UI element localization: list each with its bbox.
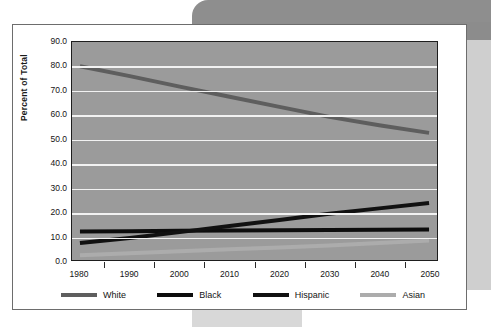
legend-label: White [103, 290, 126, 300]
series-line-black [80, 229, 429, 231]
series-line-asian [80, 241, 429, 256]
x-tick-mark [405, 262, 406, 268]
x-axis-tick-labels: 19801990200020102020203020402050 [71, 269, 438, 283]
legend-item-white[interactable]: White [61, 290, 126, 300]
gridline [72, 66, 437, 68]
y-axis-tick-labels: 90.080.070.060.050.040.030.020.010.00.0 [27, 25, 67, 309]
gridline [72, 91, 437, 93]
x-tick-mark [355, 262, 356, 268]
plot-area [71, 41, 438, 261]
x-tick-mark [104, 262, 105, 268]
x-tick-mark [305, 262, 306, 268]
x-tick-label: 2030 [320, 269, 339, 279]
y-tick-label: 10.0 [33, 232, 67, 241]
gridline [72, 115, 437, 117]
y-tick-label: 60.0 [33, 110, 67, 119]
series-line-white [80, 66, 429, 133]
legend-item-asian[interactable]: Asian [360, 290, 425, 300]
y-tick-label: 50.0 [33, 135, 67, 144]
chart-legend: WhiteBlackHispanicAsian [53, 287, 433, 303]
x-tick-mark [154, 262, 155, 268]
y-tick-label: 0.0 [33, 257, 67, 266]
legend-swatch-icon [61, 293, 97, 297]
x-axis-ticks [71, 262, 438, 269]
gridline [72, 164, 437, 166]
legend-swatch-icon [157, 293, 193, 297]
y-tick-label: 80.0 [33, 61, 67, 70]
legend-item-black[interactable]: Black [157, 290, 221, 300]
legend-label: Hispanic [295, 290, 330, 300]
x-tick-label: 2010 [220, 269, 239, 279]
chart-figure: Percent of Total 90.080.070.060.050.040.… [13, 25, 466, 309]
x-tick-label: 2050 [421, 269, 440, 279]
legend-swatch-icon [253, 293, 289, 297]
x-tick-label: 2040 [370, 269, 389, 279]
series-lines [72, 42, 437, 260]
legend-label: Asian [402, 290, 425, 300]
y-tick-label: 40.0 [33, 159, 67, 168]
gridline [72, 238, 437, 240]
y-tick-label: 30.0 [33, 183, 67, 192]
y-tick-label: 70.0 [33, 86, 67, 95]
x-tick-label: 2000 [170, 269, 189, 279]
legend-label: Black [199, 290, 221, 300]
gridline [72, 189, 437, 191]
y-tick-label: 90.0 [33, 37, 67, 46]
x-tick-mark [204, 262, 205, 268]
page-right-gray-strip [463, 40, 491, 290]
y-tick-label: 20.0 [33, 208, 67, 217]
x-tick-mark [255, 262, 256, 268]
legend-item-hispanic[interactable]: Hispanic [253, 290, 330, 300]
x-tick-label: 1990 [120, 269, 139, 279]
gridline [72, 140, 437, 142]
x-tick-label: 1980 [70, 269, 89, 279]
gridline [72, 213, 437, 215]
x-tick-label: 2020 [270, 269, 289, 279]
legend-swatch-icon [360, 293, 396, 297]
chart-card: Percent of Total 90.080.070.060.050.040.… [12, 24, 467, 310]
